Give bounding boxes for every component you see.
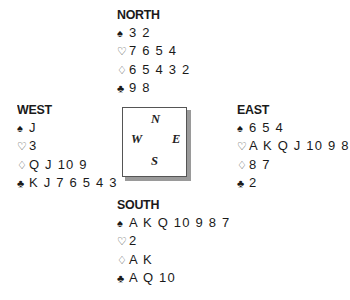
spade-icon: ♠: [237, 119, 249, 137]
hearts-cards: 2: [129, 233, 137, 248]
heart-icon: ♡: [17, 137, 29, 155]
diamonds-cards: A K: [129, 252, 153, 267]
hand-west: WEST ♠J ♡3 ♢Q J 10 9 ♣K J 7 6 5 4 3: [17, 101, 118, 192]
diamonds-row: ♢6 5 4 3 2: [117, 61, 190, 79]
compass-west: W: [131, 132, 142, 147]
heart-icon: ♡: [237, 137, 249, 155]
club-icon: ♣: [117, 79, 129, 97]
diamonds-row: ♢Q J 10 9: [17, 156, 118, 174]
diamonds-cards: 6 5 4 3 2: [129, 62, 190, 77]
clubs-row: ♣9 8: [117, 79, 190, 97]
hand-east: EAST ♠6 5 4 ♡A K Q J 10 9 8 ♢8 7 ♣2: [237, 101, 350, 192]
spade-icon: ♠: [117, 24, 129, 42]
hearts-cards: 3: [29, 138, 37, 153]
heart-icon: ♡: [117, 232, 129, 250]
hand-title: SOUTH: [117, 196, 221, 214]
clubs-row: ♣2: [237, 174, 350, 192]
hearts-cards: 7 6 5 4: [129, 43, 177, 58]
hearts-row: ♡2: [117, 232, 230, 250]
clubs-cards: 9 8: [129, 80, 151, 95]
diamond-icon: ♢: [117, 61, 129, 79]
hearts-cards: A K Q J 10 9 8: [249, 138, 350, 153]
spade-icon: ♠: [117, 214, 129, 232]
club-icon: ♣: [17, 174, 29, 192]
spades-row: ♠3 2: [117, 24, 190, 42]
diamonds-cards: 8 7: [249, 157, 271, 172]
spades-row: ♠J: [17, 119, 118, 137]
diamond-icon: ♢: [117, 251, 129, 269]
spades-cards: 6 5 4: [249, 120, 284, 135]
spades-row: ♠A K Q 10 9 8 7: [117, 214, 230, 232]
compass-south: S: [151, 154, 158, 169]
clubs-cards: A Q 10: [129, 270, 176, 285]
compass-box: N W E S: [122, 107, 187, 177]
hand-north: NORTH ♠3 2 ♡7 6 5 4 ♢6 5 4 3 2 ♣9 8: [117, 6, 190, 97]
clubs-cards: 2: [249, 175, 257, 190]
diamond-icon: ♢: [237, 156, 249, 174]
spades-row: ♠6 5 4: [237, 119, 350, 137]
clubs-row: ♣K J 7 6 5 4 3: [17, 174, 118, 192]
hearts-row: ♡A K Q J 10 9 8: [237, 137, 350, 155]
spades-cards: 3 2: [129, 25, 151, 40]
spade-icon: ♠: [17, 119, 29, 137]
diamonds-row: ♢8 7: [237, 156, 350, 174]
spades-cards: J: [29, 120, 37, 135]
compass-north: N: [151, 112, 160, 127]
hand-title: EAST: [237, 101, 341, 119]
diamonds-cards: Q J 10 9: [29, 157, 88, 172]
clubs-cards: K J 7 6 5 4 3: [29, 175, 118, 190]
heart-icon: ♡: [117, 42, 129, 60]
club-icon: ♣: [237, 174, 249, 192]
clubs-row: ♣A Q 10: [117, 269, 230, 287]
diamond-icon: ♢: [17, 156, 29, 174]
compass-east: E: [172, 132, 180, 147]
hand-title: WEST: [17, 101, 110, 119]
club-icon: ♣: [117, 269, 129, 287]
spades-cards: A K Q 10 9 8 7: [129, 215, 230, 230]
diamonds-row: ♢A K: [117, 251, 230, 269]
hearts-row: ♡7 6 5 4: [117, 42, 190, 60]
hand-title: NORTH: [117, 6, 185, 24]
hearts-row: ♡3: [17, 137, 118, 155]
hand-south: SOUTH ♠A K Q 10 9 8 7 ♡2 ♢A K ♣A Q 10: [117, 196, 230, 287]
